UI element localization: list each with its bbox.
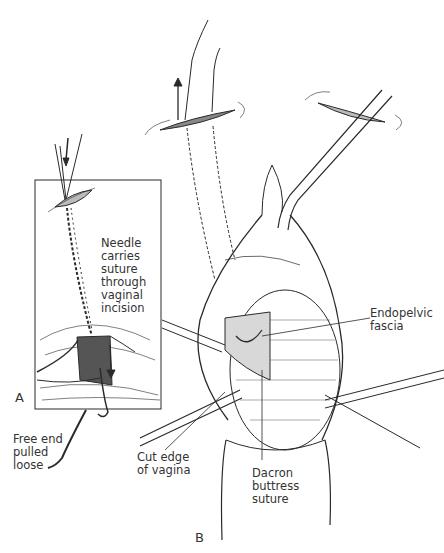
label-cut-edge-of-vagina: Cut edge of vagina	[137, 451, 190, 477]
label-endopelvic-fascia: Endopelvic fascia	[370, 307, 433, 333]
label-dacron-buttress-suture: Dacron buttress suture	[252, 467, 299, 506]
panel-letter-b: B	[195, 530, 204, 545]
line-art	[0, 0, 444, 553]
surgical-illustration: Needle carries suture through vaginal in…	[0, 0, 444, 553]
label-needle-carries-suture: Needle carries suture through vaginal in…	[101, 237, 146, 315]
panel-letter-a: A	[15, 390, 24, 405]
label-free-end: Free end pulled loose	[13, 433, 63, 472]
